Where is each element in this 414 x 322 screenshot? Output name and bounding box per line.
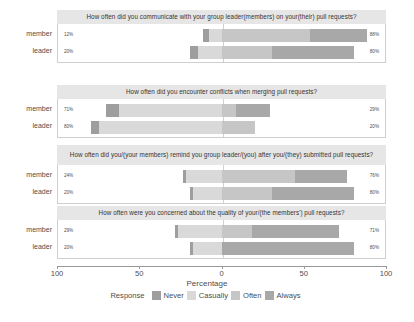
y-label-member: member — [0, 30, 52, 37]
bar-segment-casually — [209, 29, 222, 42]
panel-3: How often did you/(your members) remind … — [57, 145, 386, 204]
likert-chart: How often did you communicate with your … — [0, 0, 414, 322]
panel-body: 24%76%20%80% — [57, 165, 386, 204]
bar-segment-casually — [193, 242, 223, 255]
positive-pct-label: 88% — [370, 32, 379, 37]
negative-pct-label: 71% — [64, 107, 73, 112]
bar-segment-often — [222, 46, 271, 59]
bar-row: 24%76% — [58, 170, 385, 183]
legend-title: Response — [110, 291, 144, 300]
bar-segment-often — [222, 225, 252, 238]
positive-pct-label: 80% — [370, 245, 379, 250]
panel-strip: How often were you concerned about the q… — [57, 206, 386, 220]
y-label-leader: leader — [0, 188, 52, 195]
bar-segment-always — [252, 225, 339, 238]
panel-2: How often did you encounter conflicts wh… — [57, 85, 386, 138]
bar-segment-always — [295, 170, 348, 183]
bar-segment-casually — [193, 187, 223, 200]
panel-body: 71%29%80%20% — [57, 99, 386, 138]
negative-pct-label: 20% — [64, 245, 73, 250]
negative-pct-label: 29% — [64, 228, 73, 233]
legend-swatch-never — [152, 291, 161, 300]
stacked-bar — [175, 225, 339, 238]
x-tick-label: 100 — [380, 269, 393, 278]
panel-title: How often did you encounter conflicts wh… — [126, 88, 317, 96]
bar-segment-always — [272, 187, 354, 200]
bar-segment-never — [190, 46, 198, 59]
bar-segment-always — [222, 242, 354, 255]
panel-body: 29%71%20%80% — [57, 220, 386, 259]
panel-1: How often did you communicate with your … — [57, 10, 386, 63]
bar-segment-casually — [198, 46, 223, 59]
negative-pct-label: 20% — [64, 190, 73, 195]
legend-swatch-casually — [187, 291, 196, 300]
bar-segment-casually — [178, 225, 222, 238]
y-label-member: member — [0, 105, 52, 112]
positive-pct-label: 71% — [370, 228, 379, 233]
y-label-member: member — [0, 171, 52, 178]
stacked-bar — [190, 242, 354, 255]
legend-label: Never — [164, 291, 184, 300]
bar-row: 29%71% — [58, 225, 385, 238]
panel-title: How often were you concerned about the q… — [99, 209, 345, 217]
bar-segment-often — [222, 187, 271, 200]
bar-row: 20%80% — [58, 242, 385, 255]
legend-item-often[interactable]: Often — [231, 291, 262, 300]
legend-label: Often — [243, 291, 262, 300]
x-tick-label: 50 — [300, 269, 308, 278]
bar-segment-often — [222, 121, 255, 134]
bar-row: 80%20% — [58, 121, 385, 134]
bar-row: 12%88% — [58, 29, 385, 42]
legend-label: Always — [277, 291, 301, 300]
panel-title: How often did you communicate with your … — [87, 13, 357, 21]
panel-strip: How often did you encounter conflicts wh… — [57, 85, 386, 99]
stacked-bar — [190, 187, 354, 200]
legend-swatch-often — [231, 291, 240, 300]
stacked-bar — [106, 104, 270, 117]
legend-label: Casually — [199, 291, 228, 300]
bar-segment-never — [106, 104, 119, 117]
bar-segment-always — [236, 104, 271, 117]
stacked-bar — [190, 46, 354, 59]
bar-segment-often — [222, 170, 294, 183]
stacked-bar — [183, 170, 347, 183]
bar-segment-never — [203, 29, 210, 42]
panel-strip: How often did you communicate with your … — [57, 10, 386, 24]
positive-pct-label: 80% — [370, 190, 379, 195]
bar-row: 20%80% — [58, 46, 385, 59]
legend-item-never[interactable]: Never — [152, 291, 184, 300]
negative-pct-label: 12% — [64, 32, 73, 37]
bar-segment-often — [222, 104, 235, 117]
positive-pct-label: 20% — [370, 124, 379, 129]
panel-4: How often were you concerned about the q… — [57, 206, 386, 259]
bar-segment-always — [272, 46, 354, 59]
stacked-bar — [91, 121, 255, 134]
bar-segment-casually — [99, 121, 222, 134]
legend: Response NeverCasuallyOftenAlways — [0, 291, 414, 300]
panel-title: How often did you/(your members) remind … — [70, 151, 373, 159]
x-tick-label: 50 — [135, 269, 143, 278]
bar-segment-often — [222, 29, 309, 42]
legend-item-casually[interactable]: Casually — [187, 291, 228, 300]
legend-items: NeverCasuallyOftenAlways — [152, 291, 304, 300]
y-label-leader: leader — [0, 122, 52, 129]
positive-pct-label: 29% — [370, 107, 379, 112]
bar-segment-never — [91, 121, 99, 134]
bar-segment-casually — [186, 170, 222, 183]
bar-row: 71%29% — [58, 104, 385, 117]
negative-pct-label: 80% — [64, 124, 73, 129]
negative-pct-label: 20% — [64, 49, 73, 54]
stacked-bar — [203, 29, 367, 42]
x-axis-title: Percentage — [0, 279, 414, 288]
y-label-member: member — [0, 226, 52, 233]
negative-pct-label: 24% — [64, 173, 73, 178]
bar-segment-casually — [119, 104, 223, 117]
legend-item-always[interactable]: Always — [265, 291, 301, 300]
y-label-leader: leader — [0, 47, 52, 54]
y-label-leader: leader — [0, 243, 52, 250]
bar-row: 20%80% — [58, 187, 385, 200]
bar-segment-always — [310, 29, 368, 42]
panel-strip: How often did you/(your members) remind … — [57, 145, 386, 165]
positive-pct-label: 80% — [370, 49, 379, 54]
positive-pct-label: 76% — [370, 173, 379, 178]
